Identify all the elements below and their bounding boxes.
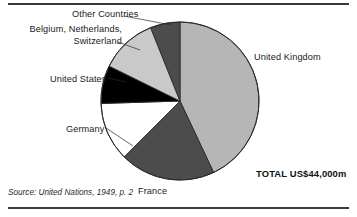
slice-label-benelux: Belgium, Netherlands, Switzerland — [14, 24, 122, 47]
slice-label-france: France — [138, 186, 167, 198]
slice-label-united-kingdom: United Kingdom — [254, 52, 321, 64]
slice-label-united-states: United States — [50, 74, 106, 86]
slice-label-germany: Germany — [66, 124, 104, 136]
source-note: Source: United Nations, 1949, p. 2 — [8, 188, 133, 197]
total-value-label: TOTAL US$44,000m — [256, 168, 346, 179]
slice-label-other-countries: Other Countries — [72, 9, 138, 21]
bottom-rule — [8, 207, 349, 209]
figure-container: Other Countries Belgium, Netherlands, Sw… — [0, 0, 357, 217]
